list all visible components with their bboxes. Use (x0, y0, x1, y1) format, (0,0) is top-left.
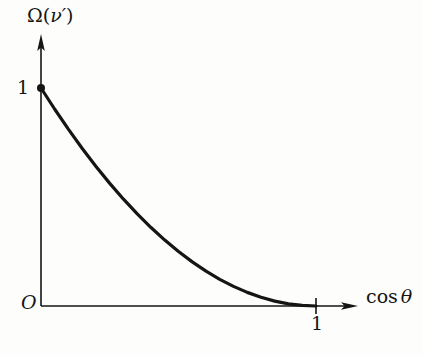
y-axis-tick-label-1: 1 (17, 78, 29, 97)
y-axis-label-close-paren: ) (66, 4, 73, 26)
x-axis-tick-label-1: 1 (311, 314, 323, 333)
y-axis-label-omega: Ω (27, 4, 43, 26)
y-axis-label: Ω(ν′) (27, 6, 74, 25)
x-axis-label-theta: θ (398, 285, 412, 307)
y-axis-label-nu: ν (50, 4, 62, 26)
figure-container: Ω(ν′) cosθ 1 1 O (0, 0, 423, 355)
plot-canvas (0, 0, 423, 355)
x-axis-label-cos: cos (366, 285, 398, 307)
curve-start-dot (37, 84, 45, 92)
origin-label: O (21, 293, 37, 312)
omega-curve (41, 88, 316, 306)
x-axis-label: cosθ (366, 287, 412, 306)
